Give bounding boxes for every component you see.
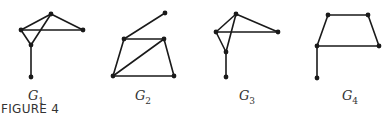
vertex: [122, 37, 127, 42]
graph-g1: [19, 12, 86, 80]
edge: [51, 14, 83, 30]
vertex: [29, 43, 34, 48]
figure-caption: FIGURE 4: [1, 102, 59, 116]
label-g2: G2: [135, 88, 151, 106]
edge: [113, 39, 164, 76]
edge: [164, 39, 174, 76]
edge: [368, 15, 379, 46]
graph-g2: [111, 11, 177, 79]
edge: [317, 15, 328, 46]
edge: [226, 14, 236, 52]
vertex: [162, 37, 167, 42]
vertex: [163, 11, 168, 16]
edge: [216, 32, 226, 52]
label-g2-main: G: [135, 88, 145, 103]
graph-g4: [315, 13, 382, 81]
edge: [236, 14, 278, 32]
vertex: [49, 12, 54, 17]
edge: [113, 39, 124, 76]
vertex: [19, 28, 24, 33]
figure-4-graphs: [0, 0, 391, 118]
vertex: [29, 75, 34, 80]
vertex: [315, 76, 320, 81]
vertex: [366, 13, 371, 18]
vertex: [224, 50, 229, 55]
vertex: [377, 44, 382, 49]
vertex: [81, 28, 86, 33]
label-g3-sub: 3: [249, 96, 255, 106]
vertex: [234, 12, 239, 17]
vertex: [214, 30, 219, 35]
edge: [124, 13, 165, 39]
vertex: [326, 13, 331, 18]
vertex: [172, 74, 177, 79]
label-g2-sub: 2: [145, 96, 151, 106]
edge: [21, 30, 31, 45]
vertex: [111, 74, 116, 79]
graph-g3: [214, 12, 281, 80]
vertex: [276, 30, 281, 35]
label-g4: G4: [342, 88, 358, 106]
label-g3-main: G: [239, 88, 249, 103]
label-g1-main: G: [28, 88, 38, 103]
label-g3: G3: [239, 88, 255, 106]
vertex: [315, 44, 320, 49]
label-g4-sub: 4: [352, 96, 358, 106]
vertex: [224, 75, 229, 80]
label-g4-main: G: [342, 88, 352, 103]
